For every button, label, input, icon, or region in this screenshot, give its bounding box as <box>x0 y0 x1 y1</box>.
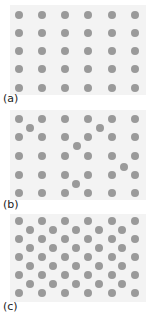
atom-dot <box>72 180 80 188</box>
atom-dot <box>38 65 46 73</box>
atom-dot <box>108 47 116 55</box>
atom-dot <box>38 115 46 123</box>
panel-label: (a) <box>3 93 18 105</box>
atom-dot <box>131 253 139 261</box>
atom-dot <box>15 253 23 261</box>
atom-dot <box>108 189 116 197</box>
atom-dot <box>61 133 69 141</box>
atom-dot <box>108 271 116 279</box>
atom-dot <box>131 189 139 197</box>
atom-dot <box>15 65 23 73</box>
atom-dot <box>131 289 139 297</box>
atom-dot <box>26 244 34 252</box>
atom-dot <box>108 11 116 19</box>
atom-dot <box>131 47 139 55</box>
atom-dot <box>38 217 46 225</box>
atom-dot <box>38 189 46 197</box>
atom-dot <box>84 217 92 225</box>
atom-dot <box>61 47 69 55</box>
atom-dot <box>84 171 92 179</box>
atom-dot <box>61 189 69 197</box>
atom-dot <box>26 124 34 132</box>
atom-dot <box>26 262 34 270</box>
atom-dot <box>108 217 116 225</box>
atom-dot <box>131 29 139 37</box>
panel-label: (c) <box>3 301 18 313</box>
atom-dot <box>108 253 116 261</box>
atom-dot <box>61 65 69 73</box>
atom-dot <box>15 189 23 197</box>
atom-dot <box>95 244 103 252</box>
atom-dot <box>15 152 23 160</box>
atom-dot <box>38 84 46 92</box>
atom-dot <box>131 171 139 179</box>
atom-dot <box>38 289 46 297</box>
atom-dot <box>108 115 116 123</box>
atom-dot <box>49 226 57 234</box>
atom-dot <box>84 289 92 297</box>
atom-dot <box>131 217 139 225</box>
atom-dot <box>108 171 116 179</box>
atom-dot <box>61 152 69 160</box>
atom-dot <box>84 271 92 279</box>
atom-dot <box>15 171 23 179</box>
atom-dot <box>108 289 116 297</box>
atom-dot <box>84 84 92 92</box>
atom-dot <box>120 163 128 171</box>
atom-dot <box>72 280 80 288</box>
atom-dot <box>108 84 116 92</box>
atom-dot <box>15 235 23 243</box>
atom-dot <box>61 217 69 225</box>
atom-dot <box>108 29 116 37</box>
atom-dot <box>15 29 23 37</box>
atom-dot <box>95 280 103 288</box>
atom-dot <box>61 253 69 261</box>
atom-dot <box>61 289 69 297</box>
panel-label: (b) <box>3 199 19 211</box>
atom-dot <box>49 262 57 270</box>
atom-dot <box>108 152 116 160</box>
atom-dot <box>131 115 139 123</box>
atom-dot <box>15 84 23 92</box>
atom-dot <box>15 11 23 19</box>
atom-dot <box>72 226 80 234</box>
atom-dot <box>38 133 46 141</box>
atom-dot <box>84 11 92 19</box>
atom-dot <box>38 253 46 261</box>
atom-dot <box>95 226 103 234</box>
atom-dot <box>15 271 23 279</box>
atom-dot <box>108 65 116 73</box>
atom-dot <box>72 262 80 270</box>
atom-dot <box>118 262 126 270</box>
atom-dot <box>84 133 92 141</box>
atom-dot <box>15 47 23 55</box>
atom-dot <box>84 189 92 197</box>
atom-dot <box>38 11 46 19</box>
atom-dot <box>15 289 23 297</box>
lattice-panel-a <box>10 5 146 95</box>
atom-dot <box>38 271 46 279</box>
atom-dot <box>61 11 69 19</box>
atom-dot <box>26 280 34 288</box>
atom-dot <box>118 226 126 234</box>
atom-dot <box>26 226 34 234</box>
atom-dot <box>84 47 92 55</box>
atom-dot <box>131 152 139 160</box>
atom-dot <box>84 235 92 243</box>
atom-dot <box>61 271 69 279</box>
atom-dot <box>15 115 23 123</box>
atom-dot <box>61 29 69 37</box>
atom-dot <box>73 142 81 150</box>
atom-dot <box>84 115 92 123</box>
atom-dot <box>118 280 126 288</box>
atom-dot <box>49 280 57 288</box>
atom-dot <box>38 171 46 179</box>
atom-dot <box>131 133 139 141</box>
atom-dot <box>118 244 126 252</box>
atom-dot <box>72 244 80 252</box>
atom-dot <box>131 11 139 19</box>
atom-dot <box>38 29 46 37</box>
atom-dot <box>38 152 46 160</box>
atom-dot <box>15 133 23 141</box>
atom-dot <box>131 271 139 279</box>
